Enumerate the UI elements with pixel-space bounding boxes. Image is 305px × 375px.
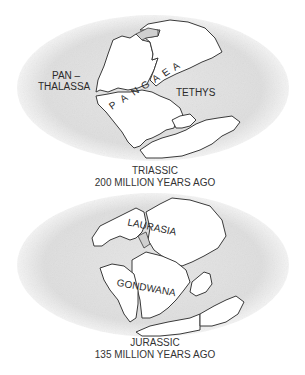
caption-period-triassic: TRIASSIC	[132, 165, 178, 176]
caption-age-triassic: 200 MILLION YEARS AGO	[95, 177, 216, 188]
caption-period-jurassic: JURASSIC	[130, 337, 179, 348]
jurassic-map: LAURASIA GONDWANA JURASSIC 135 MILLION Y…	[17, 193, 289, 360]
continental-drift-diagram: PAN – THALASSA TETHYS P A N G A E A TRIA…	[0, 0, 305, 375]
triassic-map: PAN – THALASSA TETHYS P A N G A E A TRIA…	[17, 15, 289, 188]
label-tethys: TETHYS	[176, 87, 216, 98]
label-thalassa: THALASSA	[38, 81, 91, 92]
caption-age-jurassic: 135 MILLION YEARS AGO	[95, 349, 216, 360]
label-pan: PAN –	[52, 70, 81, 81]
